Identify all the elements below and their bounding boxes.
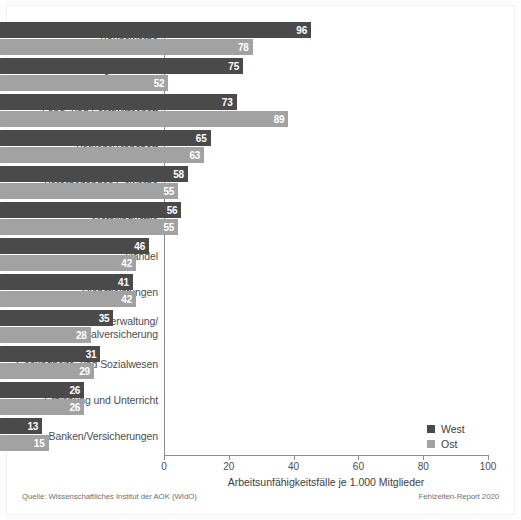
bar-value-label: 52 — [154, 78, 165, 89]
bar-group: Verkehr/Transport6563 — [0, 130, 521, 166]
bar-ost[interactable]: 28 — [0, 327, 91, 343]
legend-label-ost: Ost — [441, 438, 457, 450]
bar-value-label: 65 — [196, 133, 207, 144]
bar-west[interactable]: 46 — [0, 238, 149, 254]
report-note: Fehlzeiten-Report 2020 — [419, 492, 499, 501]
bar-group: Baugewerbe9678 — [0, 22, 521, 58]
legend-item-ost[interactable]: Ost — [427, 437, 465, 450]
bar-value-label: 15 — [34, 438, 45, 449]
x-axis-tick — [423, 455, 424, 460]
x-axis-tick — [488, 455, 489, 460]
bar-value-label: 78 — [238, 42, 249, 53]
bar-value-label: 55 — [163, 222, 174, 233]
bar-group: Handel4642 — [0, 238, 521, 274]
bar-west[interactable]: 96 — [0, 22, 311, 38]
bar-value-label: 29 — [79, 366, 90, 377]
bar-group: Erziehung und Unterricht2626 — [0, 382, 521, 418]
bar-west[interactable]: 13 — [0, 418, 42, 434]
legend-swatch-west-icon — [427, 425, 435, 433]
bar-west[interactable]: 41 — [0, 274, 133, 290]
x-axis-title: Arbeitsunfähigkeitsfälle je 1.000 Mitgli… — [164, 476, 488, 488]
bar-ost[interactable]: 26 — [0, 399, 84, 415]
bar-ost[interactable]: 29 — [0, 363, 94, 379]
x-axis-tick — [164, 455, 165, 460]
bar-value-label: 46 — [134, 241, 145, 252]
chart-legend: West Ost — [427, 422, 465, 452]
x-axis-tick-label: 80 — [418, 461, 429, 472]
legend-item-west[interactable]: West — [427, 422, 465, 435]
x-axis-tick-label: 40 — [288, 461, 299, 472]
bar-value-label: 55 — [163, 186, 174, 197]
bar-west[interactable]: 35 — [0, 310, 113, 326]
chart-page: Baugewerbe9678Energie/Wasser/ Entsorgung… — [0, 0, 521, 520]
bar-ost[interactable]: 55 — [0, 219, 178, 235]
x-axis-tick-label: 100 — [480, 461, 497, 472]
bar-group: Öffentl. Verwaltung/ Sozialversicherung3… — [0, 310, 521, 346]
bar-west[interactable]: 26 — [0, 382, 84, 398]
bar-ost[interactable]: 52 — [0, 75, 168, 91]
bar-value-label: 75 — [228, 61, 239, 72]
x-axis-tick-label: 0 — [161, 461, 167, 472]
bar-ost[interactable]: 42 — [0, 255, 136, 271]
bar-value-label: 31 — [86, 349, 97, 360]
legend-swatch-ost-icon — [427, 440, 435, 448]
bar-ost[interactable]: 55 — [0, 183, 178, 199]
x-axis-tick — [358, 455, 359, 460]
bar-group: Gesundheits- und Sozialwesen3129 — [0, 346, 521, 382]
bar-value-label: 58 — [173, 169, 184, 180]
bar-west[interactable]: 31 — [0, 346, 100, 362]
bar-group: Energie/Wasser/ Entsorgung/Bergbau7552 — [0, 58, 521, 94]
bar-west[interactable]: 73 — [0, 94, 237, 110]
bar-value-label: 42 — [121, 258, 132, 269]
bar-value-label: 26 — [70, 385, 81, 396]
bar-west[interactable]: 65 — [0, 130, 211, 146]
bar-ost[interactable]: 78 — [0, 39, 253, 55]
bar-value-label: 42 — [121, 294, 132, 305]
bar-ost[interactable]: 89 — [0, 111, 288, 127]
source-note: Quelle: Wissenschaftliches Institut der … — [22, 492, 197, 501]
bar-group: Land- und Forstwirtschaft7389 — [0, 94, 521, 130]
grouped-bar-chart: Baugewerbe9678Energie/Wasser/ Entsorgung… — [0, 0, 521, 520]
x-axis-tick — [229, 455, 230, 460]
bar-value-label: 96 — [296, 25, 307, 36]
legend-label-west: West — [441, 423, 465, 435]
bar-value-label: 89 — [274, 114, 285, 125]
bar-group: Dienstleistungen4142 — [0, 274, 521, 310]
bar-west[interactable]: 56 — [0, 202, 181, 218]
bar-west[interactable]: 75 — [0, 58, 243, 74]
bar-group: Verarbeitendes Gewerbe5855 — [0, 166, 521, 202]
bar-value-label: 28 — [76, 330, 87, 341]
bar-west[interactable]: 58 — [0, 166, 188, 182]
bar-value-label: 41 — [118, 277, 129, 288]
bar-ost[interactable]: 63 — [0, 147, 204, 163]
bar-value-label: 13 — [27, 421, 38, 432]
bar-value-label: 35 — [99, 313, 110, 324]
bar-group: Metallindustrie5655 — [0, 202, 521, 238]
bar-value-label: 73 — [222, 97, 233, 108]
bar-value-label: 63 — [189, 150, 200, 161]
bar-value-label: 56 — [167, 205, 178, 216]
x-axis-tick-label: 20 — [223, 461, 234, 472]
x-axis-line — [164, 455, 489, 456]
bar-value-label: 26 — [70, 402, 81, 413]
bar-ost[interactable]: 42 — [0, 291, 136, 307]
x-axis-tick-label: 60 — [353, 461, 364, 472]
bar-ost[interactable]: 15 — [0, 435, 49, 451]
x-axis-tick — [294, 455, 295, 460]
